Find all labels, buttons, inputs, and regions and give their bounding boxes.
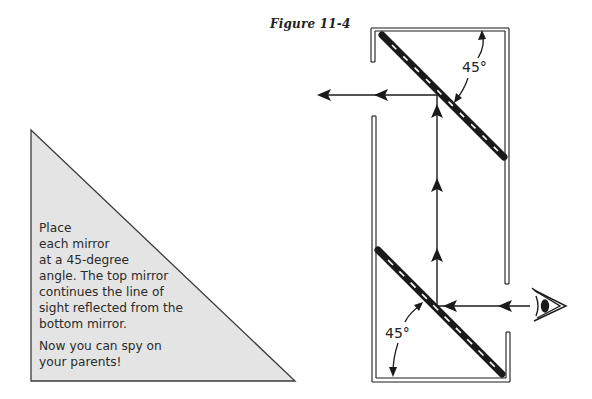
- figure-canvas: Figure 11-4 Place each mirror at a 45-de…: [0, 0, 592, 399]
- eye-icon: [532, 288, 566, 321]
- bottom-angle-indicator: 45°: [385, 302, 423, 377]
- top-angle-label: 45°: [462, 59, 487, 75]
- top-mirror: [382, 35, 504, 157]
- top-angle-indicator: 45°: [454, 30, 487, 103]
- bottom-angle-label: 45°: [385, 325, 410, 341]
- arrow-left-icon: [317, 89, 512, 312]
- periscope-diagram: 45° 45°: [0, 0, 592, 399]
- bottom-mirror: [378, 250, 502, 374]
- line-of-sight: [322, 95, 530, 306]
